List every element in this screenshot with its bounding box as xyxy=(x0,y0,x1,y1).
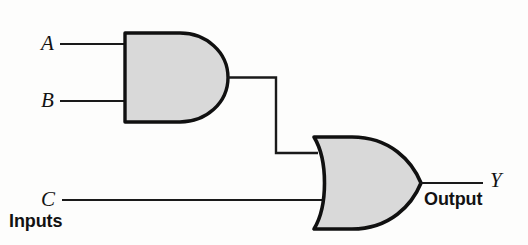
and-gate xyxy=(125,33,228,122)
inputs-group-label: Inputs xyxy=(9,212,62,230)
input-label-c: C xyxy=(41,189,55,210)
input-label-a: A xyxy=(41,33,54,54)
output-label-y: Y xyxy=(490,170,502,191)
input-label-b: B xyxy=(41,90,54,111)
wire-and-to-or xyxy=(228,78,318,154)
output-group-label: Output xyxy=(424,190,482,208)
or-gate xyxy=(314,137,421,229)
logic-circuit-diagram: A B C Y Inputs Output xyxy=(0,0,528,245)
